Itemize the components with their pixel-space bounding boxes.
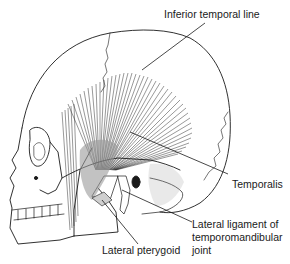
- anatomy-figure: Inferior temporal line Temporalis Latera…: [0, 0, 290, 264]
- teeth: [12, 204, 64, 220]
- cranium-outline: [22, 30, 230, 213]
- label-lateral-ligament-line2: temporomandibular: [192, 231, 282, 243]
- leader-lateral-pterygoid: [102, 200, 138, 244]
- label-inferior-temporal-line: Inferior temporal line: [164, 8, 260, 20]
- zygomatic-bone: [40, 142, 62, 194]
- label-lateral-pterygoid: Lateral pterygoid: [102, 244, 180, 256]
- label-temporalis: Temporalis: [232, 178, 283, 190]
- label-lateral-ligament-line3: joint: [192, 244, 211, 256]
- external-auditory-meatus: [132, 176, 140, 188]
- coronal-suture: [101, 33, 110, 92]
- condylar-process: [118, 176, 130, 214]
- orbit: [29, 127, 50, 166]
- label-lateral-ligament-line1: Lateral ligament of: [192, 218, 278, 230]
- lambdoid-suture: [204, 112, 228, 180]
